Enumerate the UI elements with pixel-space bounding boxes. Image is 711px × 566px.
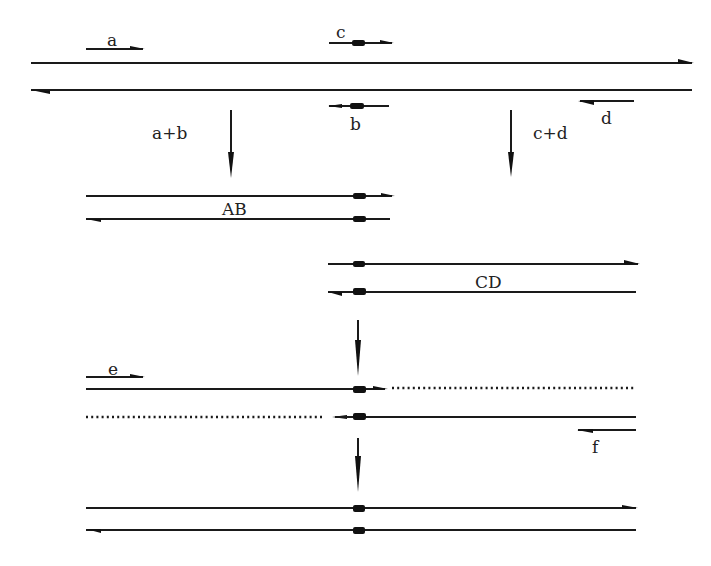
label-ab: AB [221,199,247,219]
primer-b: b [328,103,389,134]
label-e: e [108,359,118,379]
label-a-plus-b: a+b [152,123,187,143]
primer-c: c [329,22,394,46]
final-duplex [86,505,638,534]
label-cd: CD [475,272,502,292]
label-d: d [601,108,612,128]
down-arrow-2 [355,438,361,492]
recombination-diagram: a c b d a+b [0,0,711,566]
intermediate-cd: CD [328,260,640,296]
label-c: c [336,22,346,42]
merge-arrow-right: c+d [508,110,568,177]
intermediate-ab: AB [86,193,395,222]
merge-arrow-left: a+b [152,110,234,178]
top-duplex: a c b d [31,22,694,134]
primer-d: d [578,100,634,128]
label-a: a [107,30,117,50]
down-arrow-1 [355,320,361,376]
primer-a: a [86,30,145,50]
label-b: b [350,114,361,134]
label-f: f [592,437,600,457]
strand-exchange: e f [86,359,636,457]
label-c-plus-d: c+d [533,123,568,143]
